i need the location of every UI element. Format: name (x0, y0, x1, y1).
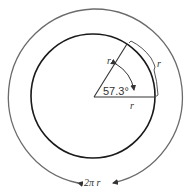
angle-label: 57.3° (103, 85, 129, 97)
radian-diagram: 57.3° r r r 2π r (0, 0, 185, 192)
radius-label-slant: r (107, 55, 111, 66)
inner-circle (31, 34, 155, 158)
arc-length-label: r (157, 58, 161, 69)
radius-label-base: r (130, 100, 134, 111)
circumference-label: 2π r (84, 177, 101, 188)
